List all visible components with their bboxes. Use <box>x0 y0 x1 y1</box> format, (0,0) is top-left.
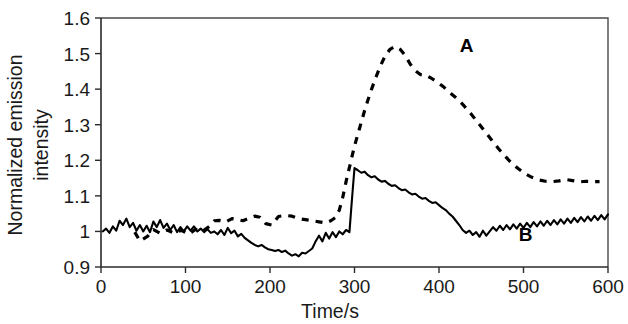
x-tick-label: 0 <box>96 276 107 297</box>
series-curve-a <box>135 46 600 241</box>
x-tick-label: 300 <box>339 276 371 297</box>
x-tick-label: 500 <box>508 276 540 297</box>
x-tick-label: 600 <box>592 276 624 297</box>
y-tick-label: 0.9 <box>64 257 90 278</box>
y-tick-label: 1.1 <box>64 186 90 207</box>
y-tick-labels: 0.911.11.21.31.41.51.6 <box>64 8 91 278</box>
y-axis-title-line2: intensity <box>30 109 52 181</box>
x-tick-label: 200 <box>254 276 286 297</box>
x-axis-title: Time/s <box>301 300 359 322</box>
series-label-b: B <box>519 224 533 245</box>
chart-figure: 0.911.11.21.31.41.51.6 01002003004005006… <box>0 0 628 324</box>
series-label-a: A <box>460 35 474 56</box>
chart-svg: 0.911.11.21.31.41.51.6 01002003004005006… <box>0 0 628 324</box>
y-tick-label: 1.6 <box>64 8 90 29</box>
y-tick-label: 1.5 <box>64 44 90 65</box>
series-annotations: AB <box>460 35 533 245</box>
x-tick-label: 400 <box>423 276 455 297</box>
y-tick-label: 1.4 <box>64 79 91 100</box>
x-tick-label: 100 <box>170 276 202 297</box>
y-tick-label: 1.2 <box>64 150 90 171</box>
y-tick-label: 1.3 <box>64 115 90 136</box>
x-tick-labels: 0100200300400500600 <box>96 276 624 297</box>
y-tick-label: 1 <box>79 221 90 242</box>
y-axis-title-line1: Normalized emission <box>4 55 26 236</box>
